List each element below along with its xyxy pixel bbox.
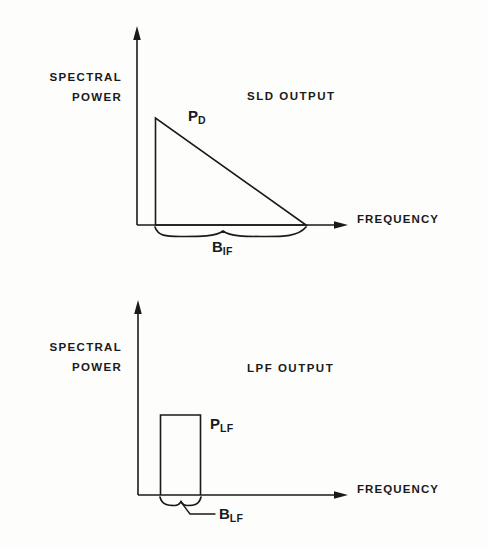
power-label-plf-base: P xyxy=(210,415,220,432)
bandwidth-brace-if xyxy=(155,227,306,237)
x-axis-title-frequency: FREQUENCY xyxy=(357,483,439,495)
y-axis xyxy=(134,300,142,495)
bandwidth-label-bif: BIF xyxy=(212,239,233,254)
power-label-pd-base: P xyxy=(188,107,198,124)
panel-sld-output: SPECTRAL POWER SLD OUTPUT FREQUENCY PD B… xyxy=(0,0,488,274)
bandwidth-label-blf-subscript: LF xyxy=(230,512,243,524)
bandwidth-label-blf-base: B xyxy=(219,505,230,522)
panel-title-lpf-output: LPF OUTPUT xyxy=(247,362,334,374)
y-axis-title-line1: SPECTRAL xyxy=(26,342,122,354)
sld-output-plot xyxy=(0,0,488,274)
bandwidth-label-bif-subscript: IF xyxy=(223,245,233,257)
panel-lpf-output: SPECTRAL POWER LPF OUTPUT FREQUENCY PLF … xyxy=(0,274,488,548)
bandwidth-brace-lf xyxy=(160,497,215,514)
y-axis-title-line2: POWER xyxy=(26,362,122,374)
power-label-pd-subscript: D xyxy=(198,114,206,126)
y-axis-title-line2: POWER xyxy=(26,92,122,104)
y-axis-title-line1: SPECTRAL xyxy=(26,72,122,84)
spectrum-trace-rectangle xyxy=(161,415,201,495)
x-axis xyxy=(138,491,348,499)
y-axis xyxy=(133,26,141,225)
lpf-output-plot xyxy=(0,274,488,548)
power-label-pd: PD xyxy=(188,108,206,123)
power-label-plf-subscript: LF xyxy=(220,422,233,434)
bandwidth-label-blf: BLF xyxy=(219,506,243,521)
panel-title-sld-output: SLD OUTPUT xyxy=(247,90,335,102)
spectrum-trace-triangle xyxy=(156,118,307,225)
power-label-plf: PLF xyxy=(210,416,233,431)
spectral-power-figure: SPECTRAL POWER SLD OUTPUT FREQUENCY PD B… xyxy=(0,0,488,548)
bandwidth-label-bif-base: B xyxy=(212,238,223,255)
x-axis-title-frequency: FREQUENCY xyxy=(357,213,439,225)
